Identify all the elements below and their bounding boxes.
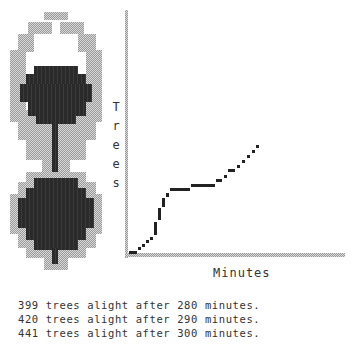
trunk xyxy=(52,248,58,264)
trees-alight-chart: T r e e s Minutes xyxy=(118,0,354,290)
burning-region xyxy=(26,228,86,240)
burning-region xyxy=(18,198,94,228)
burnt-region xyxy=(44,12,68,20)
log-line: 441 trees alight after 300 minutes. xyxy=(18,326,260,340)
burning-region xyxy=(28,102,86,116)
burnt-region xyxy=(28,22,52,34)
status-log: 399 trees alight after 280 minutes.420 t… xyxy=(18,298,260,340)
burning-region xyxy=(26,74,86,84)
trunk xyxy=(52,120,58,178)
burning-region xyxy=(20,84,92,102)
log-line: 399 trees alight after 280 minutes. xyxy=(18,298,260,312)
y-axis-label: T r e e s xyxy=(110,98,122,193)
y-axis xyxy=(125,10,128,258)
burning-region xyxy=(26,188,86,198)
x-axis xyxy=(125,253,345,257)
burning-region xyxy=(34,178,78,188)
log-line: 420 trees alight after 290 minutes. xyxy=(18,312,260,326)
burnt-region xyxy=(60,22,84,34)
burning-region xyxy=(34,66,78,74)
forest-fire-tree-view xyxy=(0,0,120,290)
x-axis-label: Minutes xyxy=(213,266,271,280)
